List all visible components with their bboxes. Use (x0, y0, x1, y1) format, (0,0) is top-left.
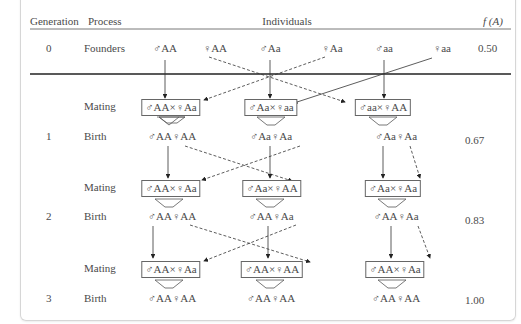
generation-1: 1 (46, 130, 52, 142)
mating-pair-2-1: ♂AA×♀Aa (141, 180, 200, 197)
offspring-2-2: ♂AA♀Aa (248, 210, 293, 222)
offspring-3-3: ♂AA♀AA (372, 292, 420, 304)
frequency-gen-0: 0.50 (478, 42, 497, 54)
process-birth-2: Birth (84, 210, 107, 222)
process-mating-2: Mating (84, 181, 116, 193)
founder-female-AA: ♀AA (203, 42, 227, 54)
mating-pair-2-3: ♂Aa×♀Aa (365, 180, 421, 197)
header-generation: Generation (30, 15, 79, 27)
mating-pair-3-3: ♂AA×♀Aa (365, 261, 424, 278)
frequency-gen-3: 1.00 (465, 294, 484, 306)
founder-female-Aa: ♀Aa (321, 42, 342, 54)
process-founders: Founders (84, 42, 125, 54)
founder-male-aa: ♂aa (375, 42, 393, 54)
founder-male-AA: ♂AA (153, 42, 177, 54)
frequency-gen-1: 0.67 (465, 134, 484, 146)
header-process: Process (88, 15, 122, 27)
mating-pair-3-1: ♂AA×♀Aa (141, 261, 200, 278)
offspring-2-1: ♂AA♀AA (148, 210, 196, 222)
mating-pair-2-2: ♂Aa×♀AA (242, 180, 301, 197)
generation-2: 2 (46, 210, 52, 222)
generation-3: 3 (46, 292, 52, 304)
founder-female-aa: ♀aa (433, 42, 451, 54)
offspring-3-2: ♂AA♀AA (247, 292, 295, 304)
process-mating-3: Mating (84, 262, 116, 274)
generation-0: 0 (46, 42, 52, 54)
offspring-2-3: ♂AA♀Aa (373, 210, 418, 222)
offspring-1-1: ♂AA♀AA (148, 130, 196, 142)
header-individuals: Individuals (262, 15, 312, 27)
offspring-3-1: ♂AA♀AA (148, 292, 196, 304)
process-birth-3: Birth (84, 292, 107, 304)
process-birth-1: Birth (84, 130, 107, 142)
mating-pair-3-2: ♂AA×♀AA (241, 261, 303, 278)
mating-pair-1-2: ♂Aa×♀aa (244, 99, 297, 116)
frequency-gen-2: 0.83 (465, 214, 484, 226)
offspring-1-3: ♂Aa♀Aa (375, 130, 417, 142)
header-frequency: f (A) (483, 15, 503, 27)
process-mating-1: Mating (84, 100, 116, 112)
mating-pair-1-1: ♂AA×♀Aa (141, 99, 200, 116)
founder-male-Aa: ♂Aa (259, 42, 280, 54)
mating-pair-1-3: ♂aa×♀AA (355, 99, 411, 116)
offspring-1-2: ♂Aa♀Aa (250, 130, 292, 142)
